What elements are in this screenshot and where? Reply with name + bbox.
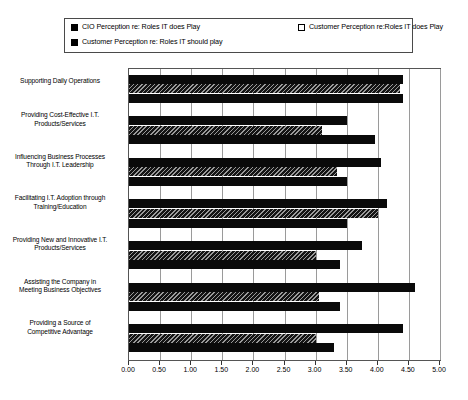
x-tick-label: 0.50	[146, 366, 172, 374]
x-tick	[159, 361, 160, 365]
category-label: Facilitating I.T. Adoption throughTraini…	[0, 194, 126, 211]
category-label-line: Providing Cost-Effective I.T.	[0, 111, 126, 120]
legend-item-customer-should-play: Customer Perception re: Roles IT should …	[71, 38, 222, 46]
bar	[129, 260, 340, 269]
x-tick	[190, 361, 191, 365]
bar	[129, 167, 337, 176]
x-tick-label: 2.00	[239, 366, 265, 374]
legend-swatch-white-icon	[298, 24, 305, 31]
chart-plot-area	[128, 68, 441, 361]
x-tick	[221, 361, 222, 365]
bar	[129, 126, 322, 135]
category-label-line: Meeting Business Objectives	[0, 286, 126, 295]
x-tick	[315, 361, 316, 365]
category-label-line: Facilitating I.T. Adoption through	[0, 194, 126, 203]
bar	[129, 158, 381, 167]
category-label: Assisting the Company inMeeting Business…	[0, 278, 126, 295]
category-label-line: Supporting Daily Operations	[0, 77, 126, 86]
category-label-line: Training/Education	[0, 203, 126, 212]
x-tick-label: 1.00	[177, 366, 203, 374]
category-label-line: Influencing Business Processes	[0, 153, 126, 162]
category-label: Influencing Business ProcessesThrough I.…	[0, 153, 126, 170]
category-label: Providing Cost-Effective I.T.Products/Se…	[0, 111, 126, 128]
bar	[129, 209, 378, 218]
bar	[129, 251, 316, 260]
bar	[129, 324, 403, 333]
bar	[129, 177, 347, 186]
x-tick-label: 2.50	[271, 366, 297, 374]
category-label: Providing a Source ofCompetitive Advanta…	[0, 319, 126, 336]
legend-item-cio-does-play: CIO Perception re: Roles IT does Play	[71, 23, 200, 31]
legend-swatch-black-icon	[71, 24, 78, 31]
legend-label-cio-does-play: CIO Perception re: Roles IT does Play	[82, 23, 200, 31]
chart-x-axis: 0.000.501.001.502.002.503.003.504.004.50…	[128, 361, 441, 383]
bar	[129, 135, 375, 144]
category-label: Providing New and Innovative I.T.Product…	[0, 236, 126, 253]
x-tick-label: 1.50	[208, 366, 234, 374]
bar-group	[129, 199, 440, 227]
bar-group	[129, 241, 440, 269]
x-tick-label: 4.00	[364, 366, 390, 374]
bar	[129, 343, 334, 352]
legend-label-customer-does-play: Customer Perception re:Roles IT does Pla…	[309, 23, 443, 31]
bar-group	[129, 116, 440, 144]
category-label-line: Providing a Source of	[0, 319, 126, 328]
category-label-line: Products/Services	[0, 120, 126, 129]
bar	[129, 241, 362, 250]
bar	[129, 116, 347, 125]
bar-group	[129, 158, 440, 186]
x-tick	[439, 361, 440, 365]
bar	[129, 292, 319, 301]
x-tick-label: 4.50	[395, 366, 421, 374]
category-label-line: Through I.T. Leadership	[0, 161, 126, 170]
bar	[129, 334, 316, 343]
bar	[129, 75, 403, 84]
category-label: Supporting Daily Operations	[0, 77, 126, 86]
bar	[129, 219, 347, 228]
gridline-5.00	[440, 69, 441, 360]
legend-label-customer-should-play: Customer Perception re: Roles IT should …	[82, 38, 222, 46]
legend-item-customer-does-play: Customer Perception re:Roles IT does Pla…	[298, 23, 443, 31]
category-label-line: Assisting the Company in	[0, 278, 126, 287]
x-tick-label: 0.00	[115, 366, 141, 374]
x-tick	[128, 361, 129, 365]
x-tick	[284, 361, 285, 365]
x-tick-label: 3.50	[333, 366, 359, 374]
x-tick	[408, 361, 409, 365]
bar-group	[129, 75, 440, 103]
bar	[129, 302, 340, 311]
bar	[129, 94, 403, 103]
bar-group	[129, 283, 440, 311]
x-tick	[252, 361, 253, 365]
category-label-line: Products/Services	[0, 244, 126, 253]
x-tick-label: 5.00	[426, 366, 452, 374]
bar	[129, 84, 400, 93]
x-tick-label: 3.00	[302, 366, 328, 374]
bar-group	[129, 324, 440, 352]
category-label-line: Competitive Advantage	[0, 328, 126, 337]
category-label-line: Providing New and Innovative I.T.	[0, 236, 126, 245]
bar	[129, 199, 387, 208]
legend-swatch-black-2-icon	[71, 39, 78, 46]
chart-legend: CIO Perception re: Roles IT does Play Cu…	[64, 18, 413, 53]
x-tick	[377, 361, 378, 365]
x-tick	[346, 361, 347, 365]
bar	[129, 283, 415, 292]
